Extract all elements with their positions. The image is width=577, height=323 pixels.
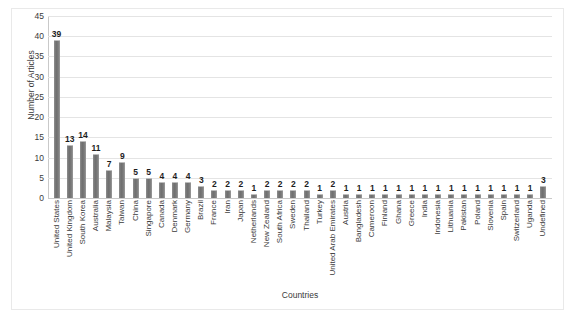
x-axis-tick-slot: Slovenia (484, 200, 497, 286)
bar-rect[interactable] (106, 170, 112, 198)
bar-value-label: 4 (186, 172, 191, 181)
bar-group[interactable]: 1 (445, 16, 458, 198)
bar-rect[interactable] (317, 194, 323, 198)
bar-rect[interactable] (277, 190, 283, 198)
bar-rect[interactable] (422, 194, 428, 198)
y-axis-tick-25: 25 (22, 93, 44, 102)
bar-rect[interactable] (461, 194, 467, 198)
bar-rect[interactable] (514, 194, 520, 198)
bar-group[interactable]: 2 (234, 16, 247, 198)
bar-group[interactable]: 1 (379, 16, 392, 198)
bar-group[interactable]: 1 (484, 16, 497, 198)
bar-rect[interactable] (343, 194, 349, 198)
bar-group[interactable]: 2 (300, 16, 313, 198)
bar-rect[interactable] (54, 40, 60, 198)
bar-group[interactable]: 1 (524, 16, 537, 198)
x-axis-tick-slot: Thailand (300, 200, 313, 286)
bar-rect[interactable] (159, 182, 165, 198)
bar-rect[interactable] (435, 194, 441, 198)
x-axis-tick-label: Ghana (395, 200, 403, 224)
bar-rect[interactable] (330, 190, 336, 198)
bar-rect[interactable] (290, 190, 296, 198)
bar-rect[interactable] (264, 190, 270, 198)
bar-group[interactable]: 1 (471, 16, 484, 198)
bar-rect[interactable] (369, 194, 375, 198)
bar-rect[interactable] (211, 190, 217, 198)
bar-rect[interactable] (146, 178, 152, 198)
bar-value-label: 3 (199, 176, 204, 185)
bar-value-label: 1 (475, 184, 480, 193)
x-axis-tick-slot: Switzerland (510, 200, 523, 286)
bar-rect[interactable] (67, 145, 73, 198)
bar-value-label: 5 (133, 168, 138, 177)
bar-rect[interactable] (475, 194, 481, 198)
bar-group[interactable]: 2 (221, 16, 234, 198)
bar-rect[interactable] (185, 182, 191, 198)
bar-rect[interactable] (356, 194, 362, 198)
bar-rect[interactable] (225, 190, 231, 198)
bar-group[interactable]: 4 (155, 16, 168, 198)
bar-group[interactable]: 7 (103, 16, 116, 198)
bar-group[interactable]: 1 (313, 16, 326, 198)
x-axis-tick-slot: New Zealand (261, 200, 274, 286)
bar-group[interactable]: 3 (195, 16, 208, 198)
bar-value-label: 1 (344, 184, 349, 193)
bar-rect[interactable] (501, 194, 507, 198)
bar-rect[interactable] (251, 194, 257, 198)
bar-group[interactable]: 1 (432, 16, 445, 198)
bar-group[interactable]: 2 (326, 16, 339, 198)
bar-rect[interactable] (488, 194, 494, 198)
bar-group[interactable]: 4 (168, 16, 181, 198)
x-axis-tick-label: Switzerland (513, 200, 521, 241)
bar-rect[interactable] (396, 194, 402, 198)
x-axis-tick-slot: Japan (234, 200, 247, 286)
bar-group[interactable]: 1 (366, 16, 379, 198)
bar-group[interactable]: 1 (339, 16, 352, 198)
bar-group[interactable]: 5 (142, 16, 155, 198)
bar-group[interactable]: 5 (129, 16, 142, 198)
bar-group[interactable]: 14 (76, 16, 89, 198)
bar-group[interactable]: 1 (458, 16, 471, 198)
x-axis-tick-slot: Austria (339, 200, 352, 286)
bar-group[interactable]: 1 (405, 16, 418, 198)
bar-group[interactable]: 13 (63, 16, 76, 198)
bar-group[interactable]: 2 (287, 16, 300, 198)
bar-rect[interactable] (93, 154, 99, 198)
bar-rect[interactable] (119, 162, 125, 198)
bar-rect[interactable] (172, 182, 178, 198)
bar-group[interactable]: 1 (418, 16, 431, 198)
bar-group[interactable]: 2 (208, 16, 221, 198)
x-axis-tick-slot: South Korea (76, 200, 89, 286)
bar-rect[interactable] (198, 186, 204, 198)
bar-rect[interactable] (133, 178, 139, 198)
y-axis-tick-45: 45 (22, 12, 44, 21)
bar-group[interactable]: 2 (261, 16, 274, 198)
bar-group[interactable]: 2 (274, 16, 287, 198)
bar-rect[interactable] (540, 186, 546, 198)
bar-value-label: 1 (317, 184, 322, 193)
bar-rect[interactable] (409, 194, 415, 198)
bar-group[interactable]: 1 (353, 16, 366, 198)
bar-rect[interactable] (80, 141, 86, 198)
bar-value-label: 14 (78, 131, 87, 140)
bar-group[interactable]: 39 (50, 16, 63, 198)
bar-group[interactable]: 1 (510, 16, 523, 198)
bar-value-label: 1 (462, 184, 467, 193)
bar-value-label: 1 (488, 184, 493, 193)
bar-group[interactable]: 11 (89, 16, 102, 198)
x-axis-tick-slot: Denmark (168, 200, 181, 286)
bar-rect[interactable] (382, 194, 388, 198)
bar-rect[interactable] (527, 194, 533, 198)
x-axis-tick-slot: Brazil (195, 200, 208, 286)
bar-rect[interactable] (448, 194, 454, 198)
bar-group[interactable]: 4 (182, 16, 195, 198)
bar-rect[interactable] (304, 190, 310, 198)
bar-rect[interactable] (238, 190, 244, 198)
x-axis-tick-label: Indonesia (434, 200, 442, 235)
bar-group[interactable]: 9 (116, 16, 129, 198)
bar-group[interactable]: 1 (392, 16, 405, 198)
bar-group[interactable]: 3 (537, 16, 550, 198)
x-axis-tick-slot: Netherlands (247, 200, 260, 286)
bar-group[interactable]: 1 (497, 16, 510, 198)
bar-group[interactable]: 1 (247, 16, 260, 198)
